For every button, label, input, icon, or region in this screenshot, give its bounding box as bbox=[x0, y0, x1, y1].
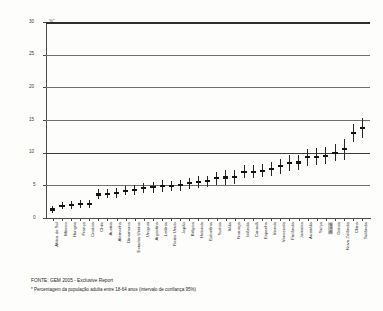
x-tick-mark-34 bbox=[362, 218, 363, 221]
data-point-21 bbox=[240, 22, 247, 218]
value-marker bbox=[260, 170, 265, 172]
chart-figure: %* 051015202530 África do SulMéxicoHungr… bbox=[0, 0, 383, 311]
x-tick-mark-19 bbox=[226, 218, 227, 221]
x-axis-label-23: Espanha bbox=[264, 222, 268, 239]
x-tick-mark-28 bbox=[308, 218, 309, 221]
value-marker bbox=[296, 161, 301, 163]
x-tick-mark-25 bbox=[280, 218, 281, 221]
x-axis-label-13: Reino Unido bbox=[173, 222, 177, 246]
x-axis-label-29: Suíça bbox=[319, 222, 323, 233]
value-marker bbox=[351, 132, 356, 134]
x-tick-mark-5 bbox=[98, 218, 99, 221]
x-tick-mark-14 bbox=[180, 218, 181, 221]
x-axis-label-25: Venezuela bbox=[282, 222, 286, 242]
data-point-32 bbox=[340, 22, 347, 218]
x-tick-mark-22 bbox=[253, 218, 254, 221]
value-marker bbox=[96, 193, 101, 195]
x-tick-mark-1 bbox=[62, 218, 63, 221]
y-tick-label-15: 15 bbox=[29, 118, 34, 123]
y-tick-mark-30 bbox=[43, 22, 46, 23]
y-tick-mark-0 bbox=[43, 218, 46, 219]
value-marker bbox=[214, 177, 219, 179]
value-marker bbox=[123, 190, 128, 192]
value-marker bbox=[205, 180, 210, 182]
y-tick-label-10: 10 bbox=[29, 150, 34, 155]
data-point-12 bbox=[158, 22, 165, 218]
x-axis-label-30: Brasil bbox=[328, 222, 333, 234]
value-marker bbox=[160, 185, 165, 187]
x-axis-label-28: Austrália bbox=[309, 222, 313, 239]
data-point-7 bbox=[113, 22, 120, 218]
value-marker bbox=[342, 148, 347, 150]
data-point-0 bbox=[49, 22, 56, 218]
data-point-14 bbox=[177, 22, 184, 218]
x-tick-mark-15 bbox=[189, 218, 190, 221]
data-point-30 bbox=[322, 22, 329, 218]
source-note: FONTE: GEM 2005 - Exclusive Report bbox=[31, 278, 113, 283]
y-tick-mark-15 bbox=[43, 120, 46, 121]
data-point-6 bbox=[104, 22, 111, 218]
value-marker bbox=[360, 127, 365, 129]
value-marker bbox=[114, 192, 119, 194]
value-marker bbox=[132, 189, 137, 191]
data-point-11 bbox=[149, 22, 156, 218]
x-axis-label-17: Eslovênia bbox=[209, 222, 213, 241]
x-axis-label-16: Holanda bbox=[200, 222, 204, 238]
x-tick-mark-33 bbox=[353, 218, 354, 221]
x-axis-label-19: Itália bbox=[228, 222, 232, 231]
x-axis-label-32: Nova Zelândia bbox=[346, 222, 350, 250]
x-axis-label-31: Grécia bbox=[337, 222, 341, 235]
x-axis-label-10: Uruguai bbox=[146, 222, 150, 237]
x-tick-mark-27 bbox=[299, 218, 300, 221]
x-axis-label-9: Estados Unidos bbox=[137, 222, 141, 252]
data-point-9 bbox=[131, 22, 138, 218]
data-point-2 bbox=[67, 22, 74, 218]
value-marker bbox=[251, 171, 256, 173]
x-axis-label-0: África do Sul bbox=[55, 222, 59, 247]
data-point-1 bbox=[58, 22, 65, 218]
value-marker bbox=[305, 156, 310, 158]
x-axis-label-34: Tailândia bbox=[364, 222, 368, 239]
x-axis-label-27: Jamaica bbox=[300, 222, 304, 238]
data-point-22 bbox=[249, 22, 256, 218]
x-tick-mark-30 bbox=[326, 218, 327, 221]
x-axis-label-8: Dinamarca bbox=[127, 222, 131, 243]
value-marker bbox=[59, 205, 64, 207]
value-marker bbox=[223, 176, 228, 178]
x-axis-label-6: Áustria bbox=[109, 222, 113, 236]
x-axis-label-18: Suécia bbox=[218, 222, 222, 235]
data-point-27 bbox=[295, 22, 302, 218]
x-tick-mark-20 bbox=[235, 218, 236, 221]
x-tick-mark-13 bbox=[171, 218, 172, 221]
x-axis-label-20: Noruega bbox=[237, 222, 241, 239]
data-point-13 bbox=[167, 22, 174, 218]
x-axis-label-4: Croácia bbox=[91, 222, 95, 237]
x-axis-label-7: Alemanha bbox=[118, 222, 122, 242]
value-marker bbox=[332, 152, 337, 154]
value-marker bbox=[314, 156, 319, 158]
x-axis-label-22: Canadá bbox=[255, 222, 259, 237]
value-marker bbox=[169, 185, 174, 187]
data-point-25 bbox=[277, 22, 284, 218]
x-axis-label-11: Argentina bbox=[155, 222, 159, 241]
data-point-4 bbox=[86, 22, 93, 218]
x-tick-mark-26 bbox=[289, 218, 290, 221]
data-point-19 bbox=[222, 22, 229, 218]
y-tick-mark-20 bbox=[43, 87, 46, 88]
data-point-28 bbox=[304, 22, 311, 218]
x-axis-label-33: China bbox=[355, 222, 359, 233]
value-marker bbox=[105, 193, 110, 195]
data-point-23 bbox=[258, 22, 265, 218]
plot-area bbox=[46, 22, 370, 218]
data-point-20 bbox=[231, 22, 238, 218]
x-axis-label-15: Bélgica bbox=[191, 222, 195, 236]
x-tick-mark-8 bbox=[126, 218, 127, 221]
value-marker bbox=[287, 162, 292, 164]
value-marker bbox=[278, 165, 283, 167]
value-marker bbox=[87, 203, 92, 205]
x-axis-label-26: Finlândia bbox=[291, 222, 295, 240]
x-tick-mark-0 bbox=[53, 218, 54, 221]
data-point-8 bbox=[122, 22, 129, 218]
x-tick-mark-17 bbox=[208, 218, 209, 221]
y-tick-mark-10 bbox=[43, 153, 46, 154]
